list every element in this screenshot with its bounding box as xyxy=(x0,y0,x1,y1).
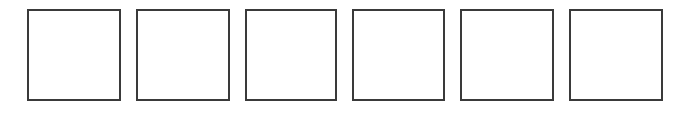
empty-box-3 xyxy=(245,9,337,101)
empty-box-2 xyxy=(136,9,230,101)
empty-box-6 xyxy=(569,9,663,101)
empty-box-5 xyxy=(460,9,554,101)
empty-box-4 xyxy=(352,9,445,101)
empty-box-1 xyxy=(27,9,121,101)
